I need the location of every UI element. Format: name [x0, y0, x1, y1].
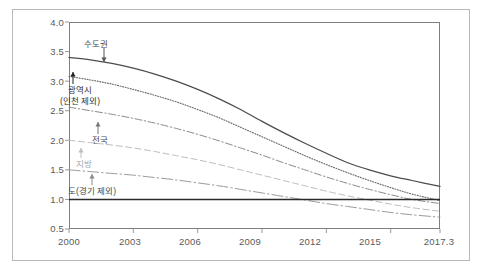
plot-area — [69, 22, 440, 229]
x-tick-label-2006: 2006 — [162, 236, 218, 247]
x-tick-label-2017-3: 2017.3 — [411, 236, 467, 247]
x-tick-label-2003: 2003 — [102, 236, 158, 247]
y-tick-label-1-5: 1.5 — [20, 164, 64, 175]
y-tick-label-2-5: 2.5 — [20, 105, 64, 116]
series-label-jeonguk: 전국 — [92, 135, 108, 145]
y-tick-label-0-5: 0.5 — [20, 223, 64, 234]
x-tick-label-2000: 2000 — [41, 236, 97, 247]
x-tick-label-2009: 2009 — [222, 236, 278, 247]
chart-figure: 4.0 3.5 3.0 2.5 2.0 1.5 1.0 0.5 2000 200… — [0, 0, 484, 272]
y-tick-label-3-0: 3.0 — [20, 76, 64, 87]
y-tick-label-1-0: 1.0 — [20, 194, 64, 205]
y-tick-label-4-0: 4.0 — [20, 17, 64, 28]
x-tick-label-2012: 2012 — [282, 236, 338, 247]
y-tick-label-3-5: 3.5 — [20, 46, 64, 57]
series-label-do: 도(경기 제외) — [68, 186, 116, 196]
y-tick-label-2-0: 2.0 — [20, 135, 64, 146]
x-tick-label-2015: 2015 — [342, 236, 398, 247]
series-label-sudogwon: 수도권 — [84, 39, 108, 49]
series-label-gwangyeoksi: 광역시 — [68, 85, 92, 95]
series-label-gwangyeoksi-sub: (인천 제외) — [60, 96, 100, 106]
series-label-jibang: 지방 — [76, 159, 92, 169]
